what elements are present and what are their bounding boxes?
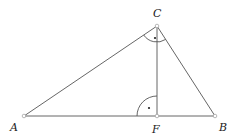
point-b <box>213 114 217 118</box>
label-a: A <box>9 121 18 134</box>
angle-arc-f <box>137 96 157 116</box>
label-c: C <box>153 7 162 20</box>
segment-ca <box>24 26 157 116</box>
point-f <box>155 114 159 118</box>
label-f: F <box>151 123 160 136</box>
point-a <box>22 114 26 118</box>
label-b: B <box>218 121 227 134</box>
point-c <box>155 24 159 28</box>
triangle-diagram: C A F B <box>0 0 238 140</box>
right-angle-dot-c <box>154 37 156 39</box>
right-angle-dot-f <box>148 107 150 109</box>
